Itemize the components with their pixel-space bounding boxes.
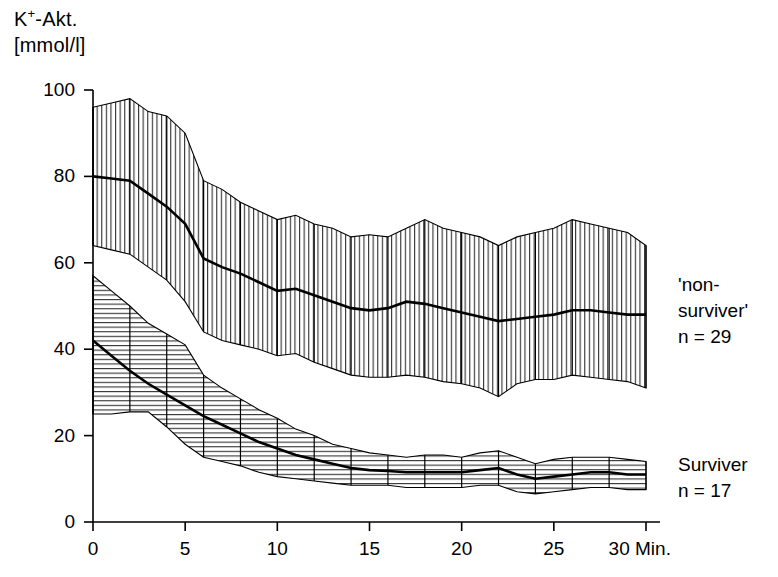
y-axis-symbol: K	[14, 8, 28, 30]
legend-surviver-count: n = 17	[678, 478, 748, 504]
legend-nonsurviver: 'non- surviver' n = 29	[678, 272, 748, 350]
y-axis-quantity: -Akt.	[35, 8, 77, 30]
legend-nonsurviver-line1: 'non-	[678, 272, 748, 298]
legend-nonsurviver-count: n = 29	[678, 324, 748, 350]
x-axis-tick-label: 0	[88, 538, 99, 560]
x-axis-tick-label: 15	[359, 538, 380, 560]
legend-surviver: Surviver n = 17	[678, 452, 748, 504]
x-axis-tick-label: 10	[267, 538, 288, 560]
legend-nonsurviver-line2: surviver'	[678, 298, 748, 324]
y-axis-title-line1: K+-Akt.	[14, 6, 77, 31]
y-axis-tick-label: 0	[0, 511, 75, 533]
y-axis-ticks	[84, 90, 93, 522]
y-axis-unit: [mmol/l]	[14, 34, 86, 57]
legend-surviver-line1: Surviver	[678, 452, 748, 478]
x-axis-unit-label: Min.	[630, 538, 671, 559]
plot-area	[0, 0, 778, 577]
x-axis-tick-label: 20	[451, 538, 472, 560]
y-axis-tick-label: 40	[0, 338, 75, 360]
y-axis-tick-label: 20	[0, 425, 75, 447]
y-axis-tick-label: 100	[0, 79, 75, 101]
x-axis-tick-label: 5	[180, 538, 191, 560]
y-axis-tick-label: 60	[0, 252, 75, 274]
x-axis-ticks	[93, 522, 646, 531]
x-axis-tick-label: 25	[543, 538, 564, 560]
x-axis-tick-label: 30 Min.	[609, 538, 671, 560]
chart-figure: K+-Akt. [mmol/l]	[0, 0, 778, 577]
y-axis-tick-label: 80	[0, 165, 75, 187]
